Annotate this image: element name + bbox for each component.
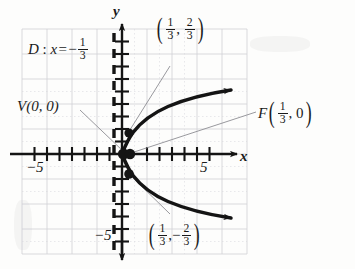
- directrix-label: D : x = −13: [28, 38, 89, 63]
- upper-comma: ,: [176, 21, 180, 37]
- directrix-colon: :: [39, 41, 51, 57]
- focus-label: F(13, 0): [258, 100, 313, 129]
- focus-open-paren: (: [269, 99, 275, 128]
- point-focus: [125, 149, 135, 159]
- directrix-variable: x: [51, 41, 58, 57]
- y-axis-label: y: [113, 4, 120, 19]
- focus-x-denominator: 3: [278, 114, 288, 126]
- directrix-fraction: 13: [78, 37, 88, 62]
- x-tick-label-pos5: 5: [200, 160, 208, 175]
- vertex-label: V(0, 0): [17, 99, 59, 114]
- lower-y-denominator: 3: [182, 236, 192, 248]
- directrix-name: D: [28, 41, 39, 57]
- focus-name: F: [258, 105, 267, 121]
- upper-x-fraction: 13: [166, 17, 176, 42]
- lower-point-label: (13,−23): [147, 222, 202, 251]
- y-tick-label-neg5: −5: [94, 228, 112, 243]
- lower-y-fraction: 23: [182, 223, 192, 248]
- x-axis-label: x: [240, 149, 248, 164]
- parabola-figure: D : x = −13 V(0, 0) F(13, 0) (13, 23) (1…: [0, 0, 355, 269]
- upper-open-paren: (: [157, 15, 163, 44]
- directrix-sign: −: [68, 41, 76, 57]
- upper-point-label: (13, 23): [155, 16, 205, 45]
- lower-y-sign: −: [172, 227, 180, 243]
- leader-upper-point: [128, 66, 170, 133]
- upper-y-fraction: 23: [185, 17, 195, 42]
- lower-open-paren: (: [149, 221, 155, 250]
- lower-x-fraction: 13: [158, 223, 168, 248]
- focus-comma: ,: [289, 105, 293, 121]
- upper-close-paren: ): [197, 15, 203, 44]
- vertex-label-text: V(0, 0): [17, 98, 59, 114]
- x-tick-label-neg5: −5: [26, 160, 44, 175]
- parabola-upper-branch: [122, 90, 231, 154]
- point-lower-latus-rectum: [124, 169, 134, 179]
- directrix-denominator: 3: [78, 50, 88, 62]
- focus-y-value: 0: [296, 105, 304, 121]
- lower-close-paren: ): [194, 221, 200, 250]
- parabola-lower-branch: [122, 154, 231, 218]
- upper-y-denominator: 3: [185, 30, 195, 42]
- focus-x-fraction: 13: [278, 101, 288, 126]
- focus-close-paren: ): [305, 99, 311, 128]
- point-upper-latus-rectum: [124, 128, 133, 137]
- lower-x-denominator: 3: [158, 236, 168, 248]
- upper-x-denominator: 3: [166, 30, 176, 42]
- directrix-equals: =: [58, 41, 66, 57]
